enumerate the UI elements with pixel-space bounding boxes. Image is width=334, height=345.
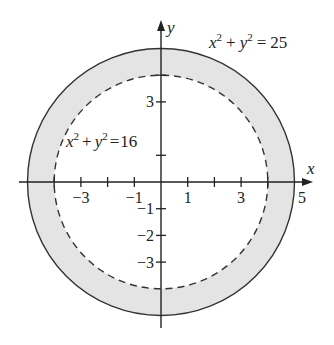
annulus-diagram: y x −3 −1 1 3 5 3 −1 −2 −3 x2+y2=25 x2+y… bbox=[0, 0, 334, 345]
x-axis-arrow-icon bbox=[302, 178, 313, 186]
x-tick-label-5: 5 bbox=[298, 189, 306, 206]
y-tick-label-neg2: −2 bbox=[137, 227, 154, 244]
x-tick-label-3: 3 bbox=[237, 189, 245, 206]
y-axis-label: y bbox=[165, 18, 175, 37]
x-axis-label: x bbox=[306, 159, 315, 178]
outer-circle-equation: x2+y2=25 bbox=[208, 31, 287, 52]
y-tick-label-3: 3 bbox=[146, 93, 154, 110]
x-tick-label-1: 1 bbox=[184, 189, 192, 206]
inner-circle-equation: x2+y2=16 bbox=[65, 130, 137, 151]
y-tick-label-neg3: −3 bbox=[137, 254, 154, 271]
y-tick-label-neg1: −1 bbox=[137, 200, 154, 217]
x-tick-label-neg3: −3 bbox=[72, 189, 89, 206]
y-axis-arrow-icon bbox=[157, 20, 165, 31]
